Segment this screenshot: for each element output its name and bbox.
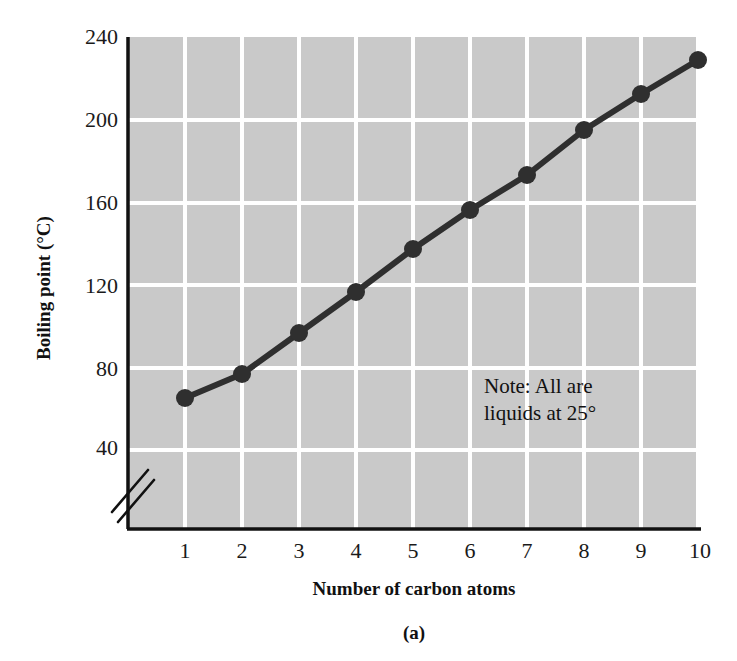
x-tick-label-8: 8 [564, 540, 604, 562]
x-tick-label-2: 2 [222, 540, 262, 562]
x-tick-label-1: 1 [165, 540, 205, 562]
data-point-10 [689, 51, 707, 69]
data-point-3 [290, 324, 308, 342]
data-point-2 [233, 365, 251, 383]
x-tick-label-7: 7 [507, 540, 547, 562]
data-point-7 [518, 166, 536, 184]
data-point-9 [632, 85, 650, 103]
data-point-4 [347, 283, 365, 301]
x-tick-label-4: 4 [336, 540, 376, 562]
x-tick-label-3: 3 [279, 540, 319, 562]
x-axis-tick-labels: 1 2 3 4 5 6 7 8 9 10 [0, 540, 737, 574]
x-tick-label-6: 6 [450, 540, 490, 562]
data-point-6 [461, 201, 479, 219]
data-point-1 [176, 389, 194, 407]
figure-caption: (a) [128, 622, 700, 644]
figure-boiling-point-vs-carbon-atoms: Boiling point (°C) 240 200 160 120 80 40 [0, 0, 737, 661]
plot-note-annotation: Note: All are liquids at 25° [484, 373, 596, 428]
x-axis-title: Number of carbon atoms [128, 578, 700, 600]
data-point-8 [575, 121, 593, 139]
data-point-5 [404, 240, 422, 258]
x-tick-label-5: 5 [393, 540, 433, 562]
x-tick-label-10: 10 [680, 540, 720, 562]
x-tick-label-9: 9 [621, 540, 661, 562]
